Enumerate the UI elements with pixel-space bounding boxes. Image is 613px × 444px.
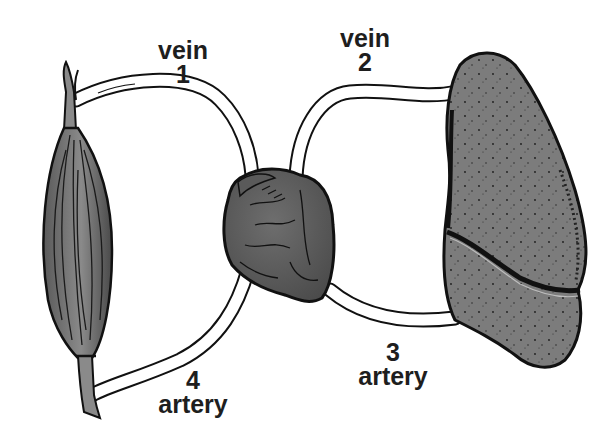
vessel-artery-3 [330, 290, 455, 320]
label-artery-3-word: artery [348, 364, 438, 388]
vessel-vein-1 [76, 80, 252, 175]
label-vein-1: vein 1 [143, 38, 223, 86]
muscle-icon [43, 62, 112, 418]
label-vein-2-number: 2 [325, 50, 405, 74]
label-artery-4: 4 artery [148, 368, 238, 416]
label-vein-2: vein 2 [325, 26, 405, 74]
label-vein-2-word: vein [325, 26, 405, 50]
label-vein-1-word: vein [143, 38, 223, 62]
label-vein-1-number: 1 [143, 62, 223, 86]
diagram-canvas: vein 1 vein 2 3 artery 4 artery [0, 0, 613, 444]
label-artery-3-number: 3 [348, 340, 438, 364]
lung-icon [444, 53, 586, 367]
label-artery-4-word: artery [148, 392, 238, 416]
label-artery-4-number: 4 [148, 368, 238, 392]
vessel-vein-2 [296, 91, 458, 178]
label-artery-3: 3 artery [348, 340, 438, 388]
diagram-illustration [0, 0, 613, 444]
